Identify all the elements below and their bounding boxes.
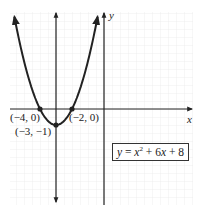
label-x-intercept-right: (−2, 0) [69,111,99,124]
parabola-graph: (−4, 0) (−2, 0) (−3, −1) x y [0,0,203,214]
eq-equals: = [122,146,134,158]
equation-box: y = x2 + 6x + 8 [112,143,189,161]
eq-term-6: + 6 [143,146,161,158]
eq-term-8: + 8 [166,146,184,158]
label-x-intercept-left: (−4, 0) [10,111,40,124]
point-vertex [53,122,58,127]
label-vertex: (−3, −1) [15,125,52,138]
x-axis-label: x [186,113,192,125]
y-axis-label: y [108,9,114,21]
